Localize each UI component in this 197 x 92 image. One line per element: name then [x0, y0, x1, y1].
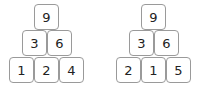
pyramid-middle-block: 6 — [47, 30, 72, 56]
pyramid-bottom-block: 4 — [59, 57, 84, 83]
pyramid-top-block: 9 — [141, 4, 166, 30]
pyramid-bottom-block: 5 — [166, 57, 191, 83]
pyramid-top-block: 9 — [34, 4, 59, 30]
pyramid-bottom-block: 1 — [9, 57, 34, 83]
pyramid-bottom-block: 1 — [141, 57, 166, 83]
pyramid-bottom-block: 2 — [116, 57, 141, 83]
pyramid-middle-block: 3 — [22, 30, 47, 56]
pyramid-bottom-block: 2 — [34, 57, 59, 83]
pyramid-middle-block: 6 — [154, 30, 179, 56]
pyramid-middle-block: 3 — [129, 30, 154, 56]
